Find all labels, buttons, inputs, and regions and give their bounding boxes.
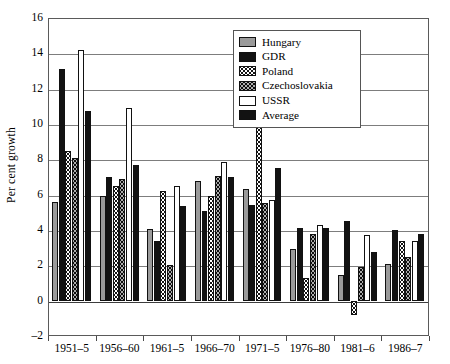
legend-label: GDR xyxy=(262,51,286,62)
bar-hungary-6 xyxy=(338,275,344,301)
bar-hungary-0 xyxy=(52,202,58,301)
legend-label: Average xyxy=(262,110,299,121)
bar-poland-3 xyxy=(208,196,214,301)
y-tick-label: 14 xyxy=(32,48,44,60)
bar-hungary-3 xyxy=(195,181,201,301)
bar-ussr-5 xyxy=(317,225,323,301)
y-tick-label: 8 xyxy=(37,154,43,166)
bar-poland-7 xyxy=(399,241,405,301)
bar-hungary-2 xyxy=(147,229,153,301)
x-tick-mark xyxy=(381,336,382,341)
y-tick-label: 12 xyxy=(32,83,44,95)
bar-gdr-5 xyxy=(297,228,303,300)
legend-item-gdr: GDR xyxy=(239,50,355,65)
legend-label: Czechoslovakia xyxy=(262,80,333,91)
bar-ussr-1 xyxy=(126,108,132,301)
x-tick-label: 1976–80 xyxy=(290,343,330,355)
bar-hungary-1 xyxy=(100,196,106,300)
bar-chart: Per cent growth 1614121086420–2 1951–519… xyxy=(0,0,450,364)
x-tick-mark xyxy=(143,336,144,341)
bar-average-6 xyxy=(371,252,377,301)
y-tick-label: 2 xyxy=(37,260,43,272)
bar-group xyxy=(48,18,96,336)
x-tick-label: 1956–60 xyxy=(99,343,139,355)
bar-czechoslovakia-0 xyxy=(72,158,78,301)
x-tick-label: 1981–6 xyxy=(340,343,375,355)
y-tick-label: 6 xyxy=(37,189,43,201)
bar-gdr-4 xyxy=(249,205,255,300)
legend-item-czechoslovakia: Czechoslovakia xyxy=(239,79,355,94)
y-tick-label: 10 xyxy=(32,118,44,130)
bar-average-0 xyxy=(85,111,91,301)
legend-item-hungary: Hungary xyxy=(239,35,355,50)
bar-gdr-1 xyxy=(106,177,112,301)
legend-swatch-icon xyxy=(239,110,256,120)
bar-czechoslovakia-5 xyxy=(310,234,316,301)
bar-czechoslovakia-2 xyxy=(167,265,173,300)
legend-label: Poland xyxy=(262,66,293,77)
bar-group xyxy=(96,18,144,336)
x-tick-label: 1971–5 xyxy=(245,343,280,355)
bar-czechoslovakia-6 xyxy=(358,267,364,301)
legend-swatch-icon xyxy=(239,81,256,91)
legend-item-average: Average xyxy=(239,108,355,123)
legend-swatch-icon xyxy=(239,37,256,47)
bar-ussr-0 xyxy=(78,50,84,301)
bar-gdr-2 xyxy=(154,241,160,301)
bar-average-4 xyxy=(275,168,281,301)
legend-swatch-icon xyxy=(239,66,256,76)
y-tick-label: 16 xyxy=(32,12,44,24)
bar-hungary-4 xyxy=(243,189,249,300)
bar-poland-2 xyxy=(160,191,166,301)
x-tick-mark xyxy=(191,336,192,341)
bar-ussr-4 xyxy=(269,200,275,301)
legend: HungaryGDRPolandCzechoslovakiaUSSRAverag… xyxy=(233,30,361,128)
x-tick-label: 1961–5 xyxy=(150,343,185,355)
x-tick-mark xyxy=(429,336,430,341)
bar-group xyxy=(191,18,239,336)
x-tick-mark xyxy=(48,336,49,341)
bar-ussr-7 xyxy=(412,241,418,300)
x-tick-mark xyxy=(334,336,335,341)
bar-ussr-2 xyxy=(174,186,180,301)
bar-ussr-6 xyxy=(364,235,370,300)
bar-czechoslovakia-4 xyxy=(262,203,268,301)
bar-gdr-6 xyxy=(344,221,350,301)
bar-average-5 xyxy=(323,228,329,300)
bar-average-7 xyxy=(418,234,424,301)
x-axis-tick-labels: 1951–51956–601961–51966–701971–51976–801… xyxy=(48,336,429,364)
bar-poland-0 xyxy=(65,151,71,300)
x-tick-mark xyxy=(96,336,97,341)
bar-poland-5 xyxy=(303,278,309,301)
bar-group xyxy=(381,18,429,336)
legend-item-poland: Poland xyxy=(239,64,355,79)
y-tick-label: 0 xyxy=(37,295,43,307)
bar-hungary-5 xyxy=(290,249,296,300)
bar-czechoslovakia-7 xyxy=(405,257,411,300)
bar-gdr-7 xyxy=(392,230,398,301)
bar-gdr-0 xyxy=(59,69,65,300)
bar-average-2 xyxy=(180,206,186,301)
x-tick-label: 1986–7 xyxy=(388,343,423,355)
bar-czechoslovakia-1 xyxy=(119,179,125,301)
x-tick-label: 1951–5 xyxy=(55,343,90,355)
x-tick-mark xyxy=(239,336,240,341)
legend-label: USSR xyxy=(262,95,290,106)
bar-average-3 xyxy=(228,177,234,301)
legend-swatch-icon xyxy=(239,52,256,62)
x-tick-mark xyxy=(286,336,287,341)
bar-hungary-7 xyxy=(385,264,391,301)
bar-poland-1 xyxy=(113,186,119,301)
x-tick-label: 1966–70 xyxy=(195,343,235,355)
y-axis-tick-labels: 1614121086420–2 xyxy=(0,0,48,364)
bar-czechoslovakia-3 xyxy=(215,176,221,301)
legend-swatch-icon xyxy=(239,96,256,106)
y-tick-label: –2 xyxy=(32,330,44,342)
legend-item-ussr: USSR xyxy=(239,93,355,108)
bar-ussr-3 xyxy=(221,162,227,301)
bar-average-1 xyxy=(133,165,139,301)
bar-poland-6 xyxy=(351,301,357,315)
bar-poland-4 xyxy=(256,127,262,301)
legend-label: Hungary xyxy=(262,37,301,48)
y-tick-label: 4 xyxy=(37,224,43,236)
